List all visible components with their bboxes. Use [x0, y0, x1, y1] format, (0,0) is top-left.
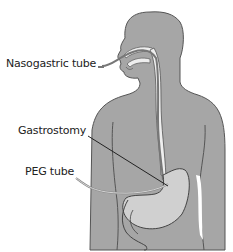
nasogastric-tube-label: Nasogastric tube [6, 57, 96, 70]
gastrostomy-label: Gastrostomy [18, 124, 86, 137]
peg-tube-label: PEG tube [25, 165, 74, 178]
